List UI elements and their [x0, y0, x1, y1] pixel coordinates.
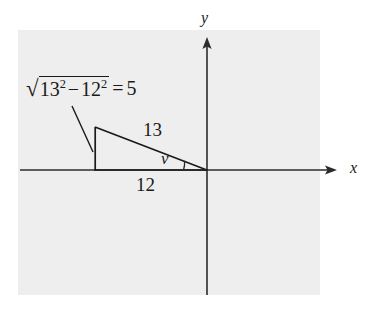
radicand-second-term: 12: [81, 78, 101, 100]
radicand-group: 132−122: [39, 76, 110, 101]
annotation-result: 5: [124, 76, 137, 100]
hypotenuse-label: 13: [143, 120, 162, 139]
radical-icon: √: [26, 77, 39, 100]
minus-operator: −: [66, 78, 81, 100]
equals-sign: =: [109, 76, 123, 100]
angle-arc-marker: [184, 161, 185, 170]
diagram-vector-layer: [0, 0, 375, 310]
radicand-second-exponent: 2: [101, 77, 107, 91]
base-label: 12: [136, 175, 155, 194]
pythagorean-annotation: √ 132−122 = 5: [26, 76, 137, 101]
annotation-leader-line: [72, 106, 93, 152]
x-axis-label: x: [350, 160, 357, 176]
angle-label: v: [161, 150, 169, 167]
radicand-first-exponent: 2: [60, 77, 66, 91]
radicand-first-term: 13: [40, 78, 60, 100]
figure-canvas: √ 132−122 = 5 x y 13 12 v: [0, 0, 375, 310]
y-axis-label: y: [201, 10, 208, 26]
